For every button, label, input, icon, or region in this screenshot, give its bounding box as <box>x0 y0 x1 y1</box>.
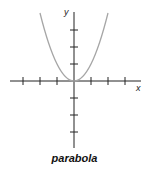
y-axis-label: y <box>64 7 69 17</box>
diagram-caption: parabola <box>0 152 149 164</box>
parabola-graph <box>0 0 149 171</box>
x-axis-label: x <box>136 83 141 93</box>
